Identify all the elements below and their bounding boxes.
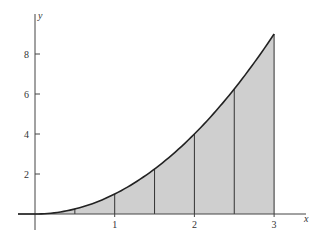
y-tick-label: 2 — [24, 169, 29, 180]
y-axis-label: y — [37, 10, 43, 21]
chart: 123 2468 x y — [0, 0, 321, 236]
y-tick-label: 8 — [24, 49, 29, 60]
y-tick-label: 6 — [24, 89, 29, 100]
x-tick-label: 2 — [192, 219, 197, 230]
x-axis-label: x — [303, 213, 309, 224]
x-tick-label: 1 — [112, 219, 117, 230]
y-ticks: 2468 — [24, 49, 40, 180]
y-tick-label: 4 — [24, 129, 29, 140]
x-ticks: 123 — [112, 214, 276, 230]
x-tick-label: 3 — [272, 219, 277, 230]
